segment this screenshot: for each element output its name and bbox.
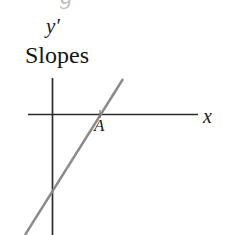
point-a-label: A bbox=[94, 117, 104, 134]
slopes-figure: g y′ Slopes x A bbox=[0, 0, 228, 235]
figure-canvas bbox=[0, 0, 228, 235]
slope-line bbox=[25, 79, 123, 235]
clipped-top-glyph: g bbox=[60, 0, 73, 8]
x-axis-label: x bbox=[203, 106, 212, 126]
y-axis-label: y′ bbox=[46, 16, 60, 37]
figure-caption: Slopes bbox=[25, 43, 89, 67]
